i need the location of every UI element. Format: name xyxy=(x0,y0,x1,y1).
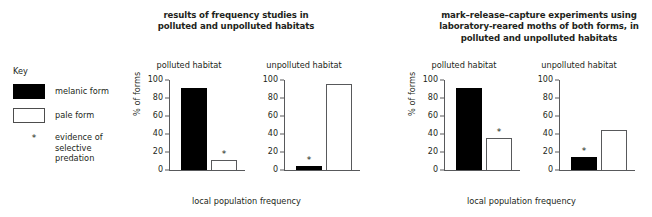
y-tick-label: 80 xyxy=(268,94,278,102)
y-axis-ticks: 020406080100 xyxy=(145,80,169,170)
chart-title: polluted habitat xyxy=(133,60,245,71)
plot-area: 020406080100 * xyxy=(523,80,635,182)
figure-panel: results of frequency studies in polluted… xyxy=(0,0,652,217)
y-tick-label: 100 xyxy=(148,76,163,84)
asterisk-icon: * xyxy=(571,147,597,156)
bar-pale-form xyxy=(486,138,512,170)
section-title-frequency-studies: results of frequency studies in polluted… xyxy=(140,10,332,33)
asterisk-icon: * xyxy=(211,150,237,159)
black-square-icon xyxy=(13,84,45,99)
key-item-label-line-2: selective xyxy=(55,143,103,154)
y-tick-label: 60 xyxy=(543,112,553,120)
bar-pale-form xyxy=(211,160,237,170)
section-title-line-1: mark–release–capture experiments using xyxy=(432,10,646,21)
y-tick-label: 60 xyxy=(268,112,278,120)
x-axis-line xyxy=(559,170,635,171)
y-tick-label: 100 xyxy=(423,76,438,84)
key-heading: Key xyxy=(13,66,133,77)
y-tick-label: 80 xyxy=(153,94,163,102)
section-title-mark-release-capture: mark–release–capture experiments using l… xyxy=(432,10,646,44)
y-tick-label: 80 xyxy=(428,94,438,102)
bar-melanic-form xyxy=(181,88,207,170)
key-swatch-wrap xyxy=(13,108,55,123)
y-tick-label: 60 xyxy=(428,112,438,120)
bar-melanic-form xyxy=(296,166,322,170)
x-axis-line xyxy=(169,170,245,171)
y-tick-label: 20 xyxy=(428,148,438,156)
chart-frequency-polluted: polluted habitat % of forms 020406080100… xyxy=(133,60,245,210)
y-tick-label: 0 xyxy=(158,166,163,174)
y-tick-label: 60 xyxy=(153,112,163,120)
key-item-label: pale form xyxy=(55,108,94,121)
section-title-line-1: results of frequency studies in xyxy=(140,10,332,21)
y-axis-ticks: 020406080100 xyxy=(535,80,559,170)
bar-melanic-form xyxy=(456,88,482,170)
asterisk-icon: * xyxy=(486,128,512,137)
bars-group: * xyxy=(560,80,635,170)
y-axis-label: % of forms xyxy=(132,72,142,116)
x-axis-line xyxy=(284,170,360,171)
section-title-line-3: polluted and unpolluted habitats xyxy=(432,33,646,44)
y-tick-label: 40 xyxy=(268,130,278,138)
bar-melanic-form xyxy=(571,157,597,170)
y-axis-label: % of forms xyxy=(407,72,417,116)
y-tick-label: 0 xyxy=(433,166,438,174)
white-square-icon xyxy=(13,108,45,123)
y-tick-label: 80 xyxy=(543,94,553,102)
bar-pale-form xyxy=(601,130,627,171)
key-item-label: melanic form xyxy=(55,84,109,97)
chart-frequency-unpolluted: unpolluted habitat 020406080100 * xyxy=(248,60,360,210)
plot-area: % of forms 020406080100 * xyxy=(408,80,520,182)
key-item-melanic-form: melanic form xyxy=(13,84,133,99)
chart-mrc-unpolluted: unpolluted habitat 020406080100 * xyxy=(523,60,635,210)
key-item-label-line-3: predation xyxy=(55,153,103,164)
y-tick-label: 20 xyxy=(543,148,553,156)
y-tick-label: 20 xyxy=(268,148,278,156)
key-legend: Key melanic form pale form * evidence of… xyxy=(13,66,133,173)
chart-title: polluted habitat xyxy=(408,60,520,71)
bars-group: * xyxy=(170,80,245,170)
bars-group: * xyxy=(285,80,360,170)
bars-group: * xyxy=(445,80,520,170)
key-swatch-wrap xyxy=(13,84,55,99)
x-axis-label-right: local population frequency xyxy=(408,196,635,207)
bar-pale-form xyxy=(326,84,352,170)
y-tick-label: 0 xyxy=(273,166,278,174)
chart-title: unpolluted habitat xyxy=(523,60,635,71)
x-axis-line xyxy=(444,170,520,171)
asterisk-icon: * xyxy=(13,132,55,144)
y-tick-label: 20 xyxy=(153,148,163,156)
key-item-label: evidence of selective predation xyxy=(55,132,103,164)
chart-title: unpolluted habitat xyxy=(248,60,360,71)
plot-area: % of forms 020406080100 * xyxy=(133,80,245,182)
chart-mrc-polluted: polluted habitat % of forms 020406080100… xyxy=(408,60,520,210)
plot-area: 020406080100 * xyxy=(248,80,360,182)
key-item-pale-form: pale form xyxy=(13,108,133,123)
y-tick-label: 0 xyxy=(548,166,553,174)
y-tick-label: 100 xyxy=(263,76,278,84)
section-title-line-2: laboratory-reared moths of both forms, i… xyxy=(432,21,646,32)
y-tick-label: 100 xyxy=(538,76,553,84)
section-title-line-2: polluted and unpolluted habitats xyxy=(140,21,332,32)
y-axis-ticks: 020406080100 xyxy=(420,80,444,170)
x-axis-label-left: local population frequency xyxy=(133,196,360,207)
y-tick-label: 40 xyxy=(153,130,163,138)
key-item-selective-predation: * evidence of selective predation xyxy=(13,132,133,164)
asterisk-icon: * xyxy=(296,156,322,165)
key-item-label-line-1: evidence of xyxy=(55,132,103,143)
y-tick-label: 40 xyxy=(428,130,438,138)
y-tick-label: 40 xyxy=(543,130,553,138)
y-axis-ticks: 020406080100 xyxy=(260,80,284,170)
